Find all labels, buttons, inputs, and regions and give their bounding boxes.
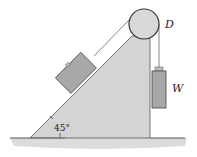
weight-label: W: [172, 82, 185, 95]
diagram-canvas: D W 45°: [0, 0, 197, 157]
angle-label: 45°: [54, 123, 70, 133]
hanging-weight-hook: [155, 67, 163, 71]
hanging-weight: [152, 71, 166, 108]
pulley-label: D: [164, 18, 174, 31]
pulley-d: [129, 9, 159, 39]
inclined-wedge: [30, 36, 150, 138]
ground-shadow: [10, 138, 187, 149]
